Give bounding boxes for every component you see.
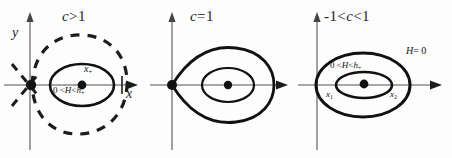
center-point-dot (360, 80, 369, 89)
energy-range-label-panel-3: 0 <H<h+ (330, 60, 361, 71)
condition-upper: 1 (362, 8, 370, 24)
condition-relation-2: < (353, 8, 362, 24)
condition-label-panel-3: -1<c<1 (324, 8, 370, 25)
center-point-label: x+ (84, 63, 92, 75)
x-axis-label: x (126, 86, 132, 102)
x2-label-sub: 2 (394, 94, 397, 100)
separatrix-arm-1 (12, 64, 40, 98)
y-axis-arrowhead (26, 12, 33, 22)
panel-3-canvas (298, 0, 452, 158)
saddle-point-dot (26, 80, 36, 90)
y-axis-arrowhead (313, 12, 320, 22)
panel-c-equals-1: c=1 (150, 0, 298, 158)
energy-prefix: 0 < (53, 85, 65, 95)
energy-h-sub: + (358, 65, 361, 71)
energy-prefix: 0 < (330, 60, 342, 70)
center-label-sub: + (88, 68, 92, 75)
condition-value: 1 (78, 8, 86, 24)
x-axis-arrowhead (276, 80, 288, 89)
outer-curve-label: H= 0 (406, 45, 426, 56)
center-point-dot (224, 81, 232, 89)
condition-lower: -1 (324, 8, 337, 24)
energy-h-sub: + (81, 90, 84, 96)
condition-relation-1: < (337, 8, 346, 24)
panel-2-canvas (150, 0, 298, 158)
panel-c-greater-than-1: c>1 y x x+ 0 <H<h+ (0, 0, 150, 158)
x1-intercept-label: x1 (326, 89, 333, 100)
condition-label-panel-2: c=1 (190, 8, 214, 25)
y-axis-label: y (12, 25, 18, 41)
cusp-point-dot (167, 80, 177, 90)
condition-label-panel-1: c>1 (62, 8, 86, 25)
condition-value: 1 (206, 8, 214, 24)
x1-label-sub: 1 (330, 94, 333, 100)
condition-relation: = (197, 8, 206, 24)
condition-relation: > (69, 8, 78, 24)
outer-label-equals-zero: = 0 (413, 45, 426, 56)
x2-intercept-label: x2 (390, 89, 397, 100)
condition-variable: c (190, 8, 197, 24)
y-axis-arrowhead (168, 12, 175, 22)
energy-range-label-panel-1: 0 <H<h+ (53, 85, 84, 96)
phase-portrait-figure: c>1 y x x+ 0 <H<h+ (0, 0, 452, 158)
x-axis-arrowhead (430, 80, 442, 89)
panel-c-between-minus1-and-1: -1<c<1 H= 0 0 <H<h+ x1 x2 (298, 0, 452, 158)
condition-variable: c (62, 8, 69, 24)
